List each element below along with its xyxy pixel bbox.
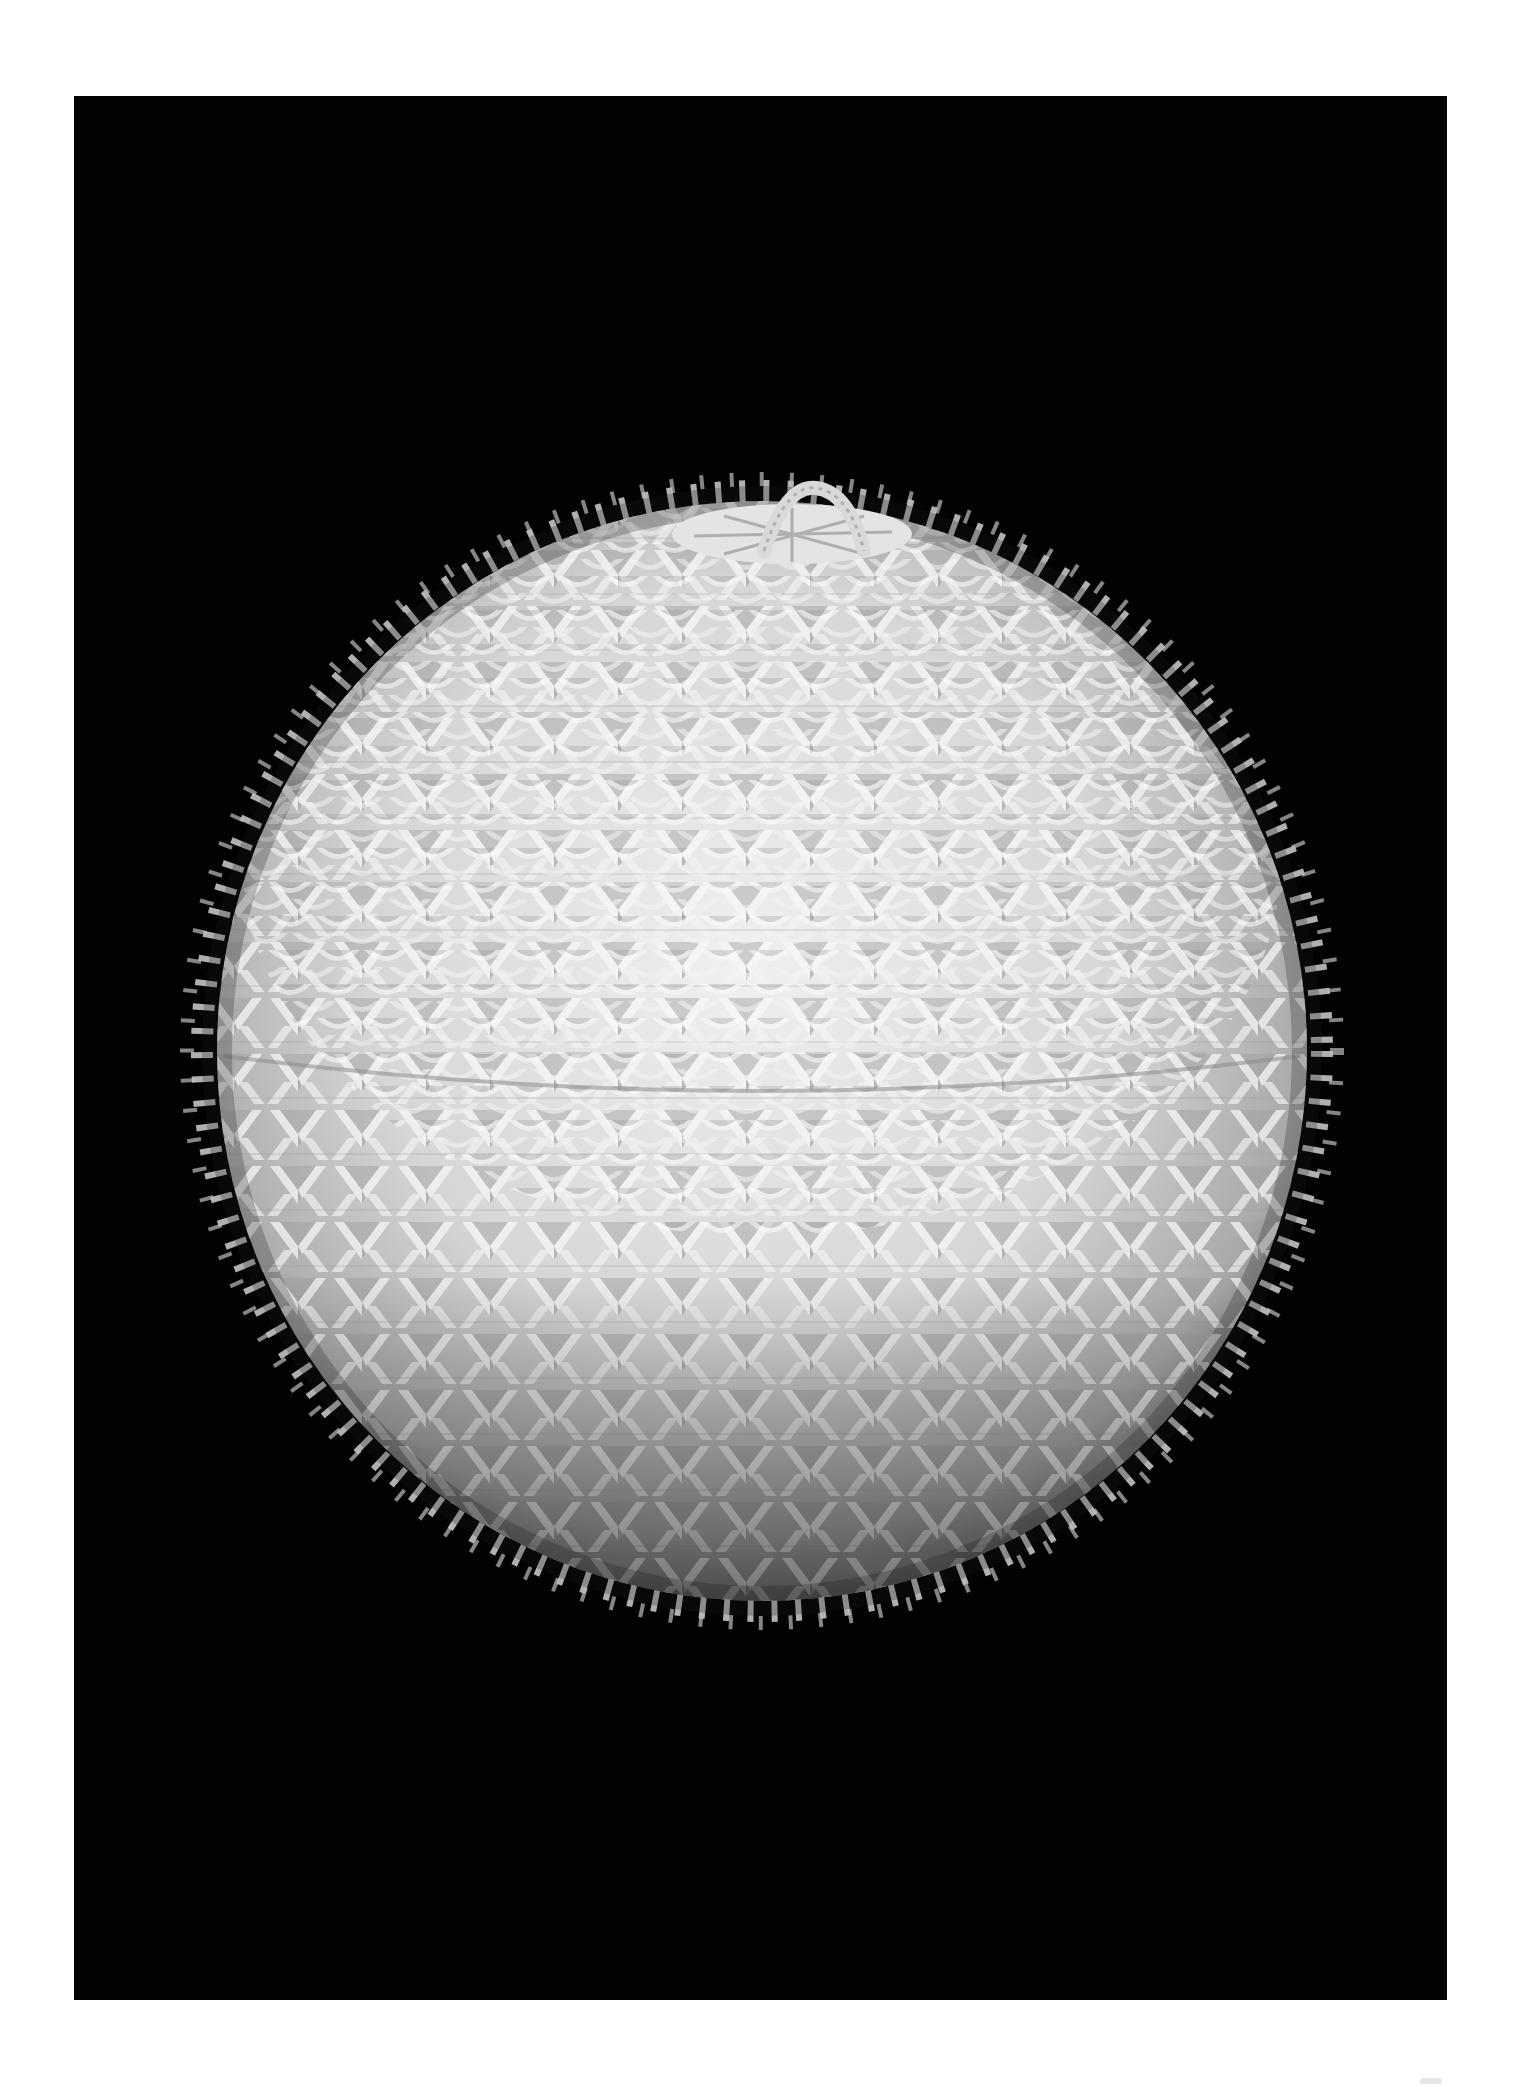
photograph: Woven lidded porcupine-stitch basket wit… — [74, 96, 1447, 2000]
lid-top-weave — [672, 504, 912, 564]
basket-illustration — [74, 96, 1447, 2000]
page-corner-mark — [1420, 2078, 1442, 2084]
